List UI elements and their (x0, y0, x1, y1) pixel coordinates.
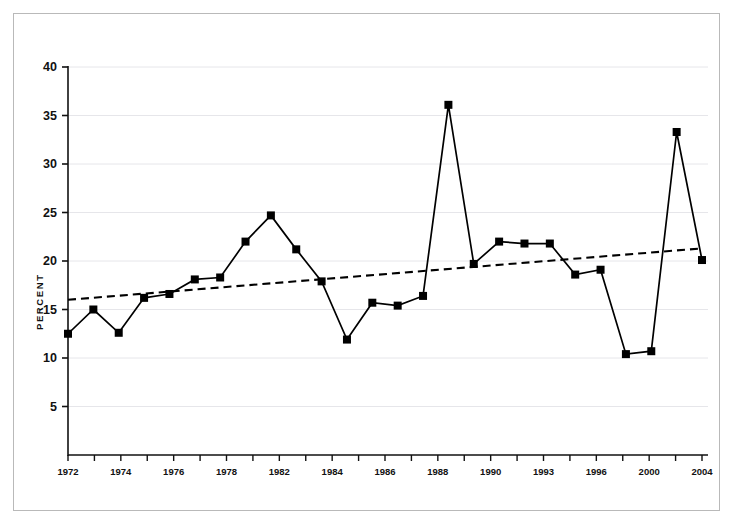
x-tick-label: 1982 (269, 466, 290, 477)
x-tick-label: 2000 (639, 466, 660, 477)
y-tick-label: 20 (43, 254, 57, 268)
x-tick-label: 1972 (57, 466, 78, 477)
y-tick-label: 15 (43, 303, 57, 317)
x-tick-label: 1974 (110, 466, 132, 477)
data-point-markers (64, 101, 706, 358)
chart-plot-area: 510152025303540 197219741976197819821984… (0, 0, 734, 525)
x-tick-label: 1976 (163, 466, 184, 477)
data-series-line (68, 105, 702, 354)
y-tick-label: 25 (43, 206, 57, 220)
x-tick-label: 1993 (533, 466, 554, 477)
chart-figure: PERCENT 510152025303540 1972197419761978… (0, 0, 734, 525)
x-tick-label: 1984 (322, 466, 344, 477)
x-axis (68, 455, 708, 461)
x-tick-label: 1996 (586, 466, 607, 477)
x-tick-label: 1978 (216, 466, 237, 477)
y-tick-label: 10 (43, 351, 57, 365)
y-tick-label: 35 (43, 109, 57, 123)
x-tick-label: 1988 (427, 466, 448, 477)
x-tick-labels: 1972197419761978198219841986198819901993… (57, 466, 713, 477)
y-tick-label: 5 (50, 400, 57, 414)
y-tick-labels: 510152025303540 (43, 60, 57, 414)
y-tick-label: 40 (43, 60, 57, 74)
gridlines (68, 67, 708, 407)
y-axis (62, 66, 68, 456)
x-tick-label: 2004 (691, 466, 713, 477)
y-tick-label: 30 (43, 157, 57, 171)
x-tick-label: 1986 (374, 466, 395, 477)
x-tick-label: 1990 (480, 466, 501, 477)
